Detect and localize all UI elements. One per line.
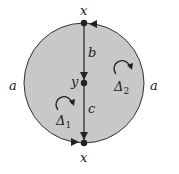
vertex-top bbox=[81, 20, 87, 26]
label-edge-c: c bbox=[88, 101, 96, 116]
label-edge-a-right: a bbox=[150, 78, 158, 93]
vertex-middle bbox=[81, 80, 87, 86]
label-top-vertex: x bbox=[80, 3, 88, 18]
label-edge-a-left: a bbox=[9, 78, 17, 93]
label-bottom-vertex: x bbox=[80, 150, 88, 165]
van-kampen-diagram: x y x a a b c Δ1 Δ2 bbox=[0, 0, 179, 174]
vertex-bottom bbox=[81, 140, 87, 146]
label-middle-vertex: y bbox=[70, 74, 79, 89]
label-edge-b: b bbox=[88, 45, 96, 60]
